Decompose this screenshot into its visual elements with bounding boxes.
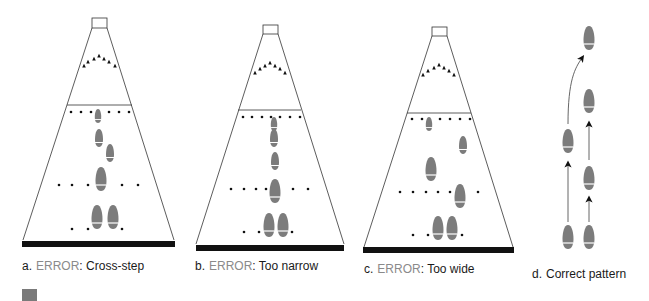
baseline-bar (22, 241, 175, 247)
goal-box (92, 18, 107, 28)
baseline-bar (196, 245, 344, 251)
caption-separator: : (252, 259, 255, 273)
error-tag: ERROR (209, 259, 252, 273)
panel-a-cross-step (22, 18, 175, 247)
caption-d: d.Correct pattern (532, 267, 626, 281)
caption-text: Cross-step (86, 259, 144, 273)
caption-label: d. (532, 267, 542, 281)
caption-label: b. (195, 259, 205, 273)
section-marker (22, 289, 37, 301)
caption-text: Correct pattern (546, 267, 626, 281)
footprints (264, 117, 289, 237)
baseline-bar (363, 247, 514, 253)
caption-b: b.ERROR: Too narrow (195, 259, 318, 273)
caption-separator: : (79, 259, 82, 273)
caption-text: Too wide (427, 262, 474, 276)
panel-c-too-wide (363, 27, 514, 253)
caption-c: c.ERROR: Too wide (364, 262, 475, 276)
goal-box (432, 27, 447, 36)
curved-arrow (568, 58, 582, 124)
caption-label: a. (22, 259, 32, 273)
cones-arc (253, 61, 287, 75)
goal-box (263, 25, 278, 34)
error-tag: ERROR (36, 259, 79, 273)
panel-d-correct-pattern (563, 26, 595, 249)
caption-label: c. (364, 262, 373, 276)
caption-text: Too narrow (259, 259, 318, 273)
cones-arc (421, 63, 456, 77)
footprints (563, 26, 595, 249)
footprints (92, 109, 119, 229)
cones-arc (82, 54, 117, 68)
caption-separator: : (421, 262, 424, 276)
caption-a: a.ERROR: Cross-step (22, 259, 144, 273)
footprints (426, 117, 468, 240)
error-tag: ERROR (377, 262, 420, 276)
panel-b-too-narrow (196, 25, 344, 251)
